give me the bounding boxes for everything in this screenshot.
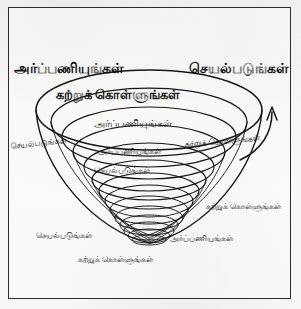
label-act-top-right: செயல்படுங்கள்	[189, 61, 289, 78]
label-commit-ring-3: அர்ப்பணியுங்கள்	[98, 147, 161, 157]
label-act-ring-4: செயல்படுங்கள்	[94, 166, 150, 176]
label-learn-bottom-center: கற்றுக் கொள்ளுங்கள்	[78, 255, 153, 265]
funnel-ring-9	[115, 206, 183, 230]
label-act-bottom-left: செயல்படுங்கள்	[36, 231, 92, 241]
label-commit-ring-2: அர்ப்பணியுங்கள்	[94, 118, 172, 131]
figure-page: அர்ப்பணியுங்கள் செயல்படுங்கள் கற்றுக் கொ…	[0, 0, 301, 309]
label-learn-right-lower: கற்றுக் கொள்ளுங்கள்	[206, 202, 281, 212]
label-learn-ring-1: கற்றுக் கொள்ளுங்கள்	[56, 88, 180, 104]
label-commit-top-left: அர்ப்பணியுங்கள்	[14, 61, 124, 78]
label-commit-bottom-right: அர்ப்பணியுங்கள்	[170, 234, 233, 244]
funnel-ring-11	[124, 222, 174, 240]
